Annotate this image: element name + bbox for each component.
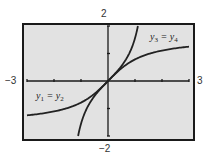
curve-label-y1-y2: y1 = y2 bbox=[36, 91, 64, 104]
xmin-label: −3 bbox=[5, 76, 16, 86]
ymin-label: −2 bbox=[99, 144, 110, 154]
ymax-label: 2 bbox=[101, 9, 107, 19]
curve-label-y3-y4: y3 = y4 bbox=[150, 32, 178, 45]
calculator-graph: 2 −2 −3 3 y1 = y2 y3 = y4 bbox=[0, 0, 216, 162]
xmax-label: 3 bbox=[197, 76, 203, 86]
graph-screen bbox=[0, 0, 216, 162]
